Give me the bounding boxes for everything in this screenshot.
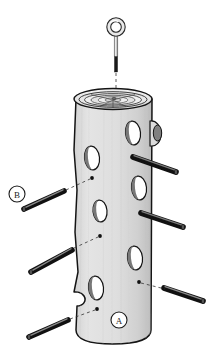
dowel-installed-mid-right-end	[182, 224, 185, 229]
callout-b[interactable]: B	[9, 186, 25, 202]
eyebolt-pilot-hole	[112, 97, 116, 99]
callout-a[interactable]: A	[111, 312, 127, 328]
dowel-loose-right-end	[202, 298, 205, 303]
dowel-loose-mid-left-end	[30, 269, 33, 274]
dowel-loose-lower-left-end	[28, 334, 31, 339]
pilot-mark	[98, 234, 102, 238]
dowel-loose-upper-left	[24, 191, 64, 209]
dowel-loose-upper-left-highlight	[25, 190, 63, 208]
pilot-mark	[90, 176, 94, 180]
eye-bolt-shaft	[114, 35, 118, 57]
diagram-canvas: B A	[0, 0, 211, 359]
dowel-loose-upper-left-end	[23, 206, 26, 211]
dowel-loose-mid-left	[31, 250, 72, 272]
dowel-loose-mid-left-highlight	[32, 249, 71, 271]
callout-a-label: A	[116, 316, 123, 326]
log-cut-top	[74, 89, 152, 110]
eye-bolt-ring-inner	[111, 22, 122, 33]
eye-bolt-thread	[114, 56, 117, 72]
pilot-mark	[137, 280, 141, 284]
log-feeder-assembly-diagram: B A	[0, 0, 211, 359]
pilot-mark	[95, 307, 99, 311]
eye-bolt-part	[107, 18, 125, 72]
dowel-loose-lower-left	[29, 320, 68, 337]
branch-stub-face	[153, 125, 161, 141]
dowel-loose-lower-left-highlight	[30, 319, 67, 336]
dowel-installed-upper-right-end	[175, 169, 178, 174]
dowel-loose-right	[164, 288, 203, 301]
callout-b-label: B	[14, 190, 20, 200]
